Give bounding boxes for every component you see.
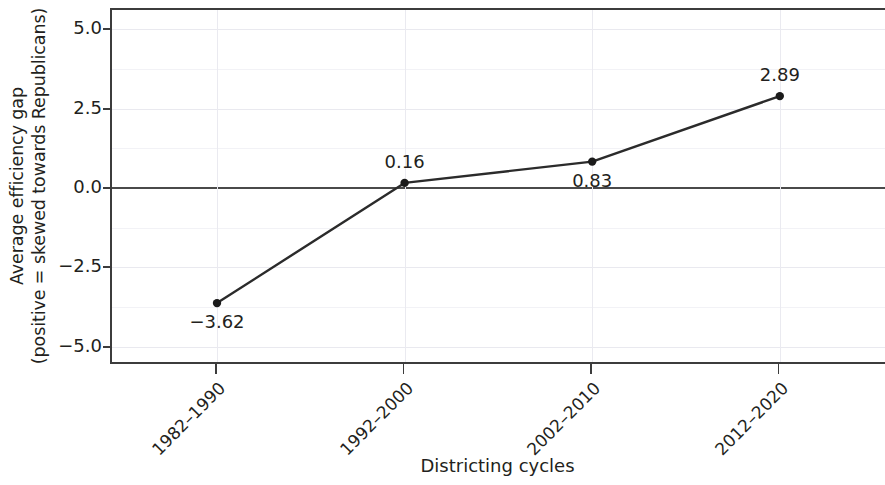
x-axis-title: Districting cycles [110,455,885,476]
series-line [112,10,885,362]
y-axis-title-line-1: Average efficiency gap [7,0,29,372]
x-tick-label: 1992–2000 [335,378,416,459]
y-tick-mark [103,346,112,348]
plot-area: −3.620.160.832.89 [110,8,885,364]
data-point [588,157,596,165]
data-point [213,299,221,307]
x-tick-mark [403,364,405,374]
y-tick-mark [103,28,112,30]
x-tick-mark [778,364,780,374]
y-tick-label: −5.0 [44,334,102,355]
data-point [776,92,784,100]
x-tick-label: 1982–1990 [148,378,229,459]
y-tick-mark [103,187,112,189]
plot-inner: −3.620.160.832.89 [112,10,885,362]
data-point [400,179,408,187]
x-tick-label: 2012–2020 [711,378,792,459]
data-point-label: 0.83 [572,170,612,191]
y-tick-mark [103,108,112,110]
y-axis-tick-labels: 5.02.50.0−2.5−5.0 [40,0,102,372]
y-tick-label: −2.5 [44,255,102,276]
x-tick-label: 2002–2010 [523,378,604,459]
y-tick-label: 0.0 [44,176,102,197]
y-tick-label: 5.0 [44,17,102,38]
x-tick-mark [590,364,592,374]
data-point-label: 2.89 [760,64,800,85]
data-point-label: −3.62 [189,311,244,332]
y-tick-mark [103,266,112,268]
x-axis-tick-labels: 1982–19901992–20002002–20102012–2020 [110,364,885,464]
y-tick-label: 2.5 [44,96,102,117]
data-point-label: 0.16 [385,151,425,172]
chart-figure: Average efficiency gap (positive = skewe… [0,0,885,485]
x-tick-mark [215,364,217,374]
line-path [217,96,780,303]
